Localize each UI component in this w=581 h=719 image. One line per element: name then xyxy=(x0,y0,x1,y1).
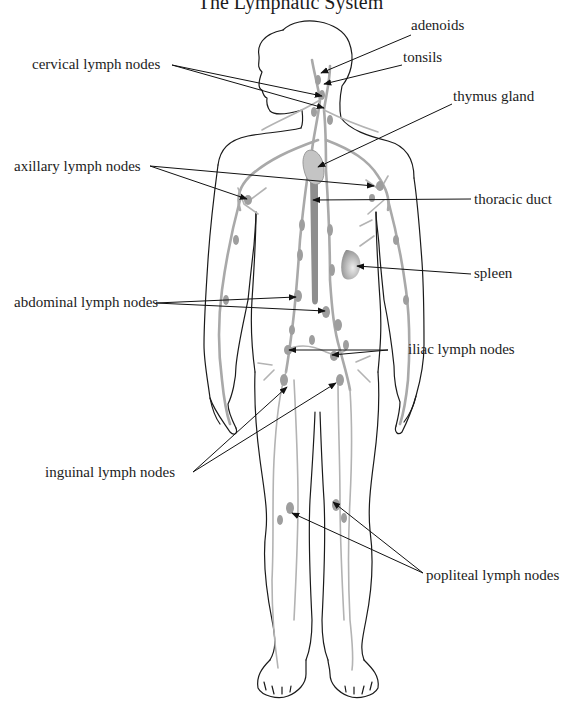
label-adenoids: adenoids xyxy=(411,18,464,33)
diagram-title: The Lymphatic System xyxy=(0,0,581,14)
lymphatic-system-diagram xyxy=(0,0,581,719)
label-spleen: spleen xyxy=(474,266,512,281)
leader-arrow-tonsils xyxy=(324,65,402,84)
leader-arrow-axillary xyxy=(150,166,374,186)
leader-arrow-thymus xyxy=(318,104,452,167)
leader-arrow-adenoids xyxy=(321,35,411,73)
leader-arrow-spleen xyxy=(357,266,471,274)
lymph-nodes xyxy=(223,75,409,525)
leader-arrow-inguinal xyxy=(193,387,287,472)
leader-arrow-cervical xyxy=(172,65,324,108)
label-thoracic-duct: thoracic duct xyxy=(474,192,552,207)
leader-arrow-thoracic xyxy=(313,199,471,200)
label-popliteal-lymph-nodes: popliteal lymph nodes xyxy=(426,568,559,583)
label-inguinal-lymph-nodes: inguinal lymph nodes xyxy=(45,465,175,480)
body-outline xyxy=(204,21,424,698)
leader-arrow-axillary xyxy=(150,166,247,199)
leader-arrow-popliteal xyxy=(292,513,423,573)
label-thymus-gland: thymus gland xyxy=(453,89,534,104)
label-abdominal-lymph-nodes: abdominal lymph nodes xyxy=(14,295,158,310)
label-axillary-lymph-nodes: axillary lymph nodes xyxy=(14,159,141,174)
label-iliac-lymph-nodes: iliac lymph nodes xyxy=(408,342,515,357)
label-cervical-lymph-nodes: cervical lymph nodes xyxy=(32,57,160,72)
spleen-organ xyxy=(341,250,360,280)
leader-arrow-abdominal xyxy=(156,303,325,311)
leader-arrow-cervical xyxy=(172,65,322,96)
label-tonsils: tonsils xyxy=(403,50,442,65)
